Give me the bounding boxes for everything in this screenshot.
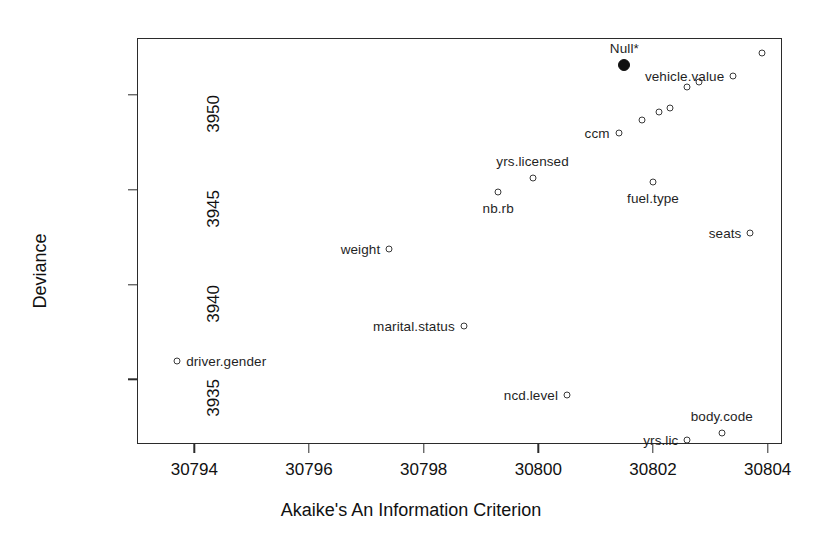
data-point: [667, 105, 674, 112]
data-point-ncd-level: [564, 391, 571, 398]
data-point-seats: [747, 230, 754, 237]
x-tick-label-5: 30804: [744, 460, 791, 480]
data-point-body-code: [718, 429, 725, 436]
y-tick-label-1: 3940: [204, 285, 224, 323]
x-tick-5: [767, 444, 768, 453]
data-point-driver-gender: [174, 357, 181, 364]
y-tick-0: [128, 379, 137, 380]
y-tick-2: [128, 189, 137, 190]
y-tick-1: [128, 284, 137, 285]
y-tick-label-0: 3935: [204, 379, 224, 417]
x-axis-title: Akaike's An Information Criterion: [0, 500, 822, 521]
data-point-vehicle-value: [730, 72, 737, 79]
point-label-marital-status: marital.status: [373, 319, 455, 334]
data-point: [684, 84, 691, 91]
data-point-null-: [618, 59, 630, 71]
data-point-yrs-lic: [684, 437, 691, 444]
point-label-nb-rb: nb.rb: [483, 201, 514, 216]
data-point-nb-rb: [495, 188, 502, 195]
data-point: [758, 50, 765, 57]
scatter-plot-figure: Null*vehicle.valueccmyrs.licensednb.rbfu…: [0, 0, 822, 542]
data-point: [638, 116, 645, 123]
y-axis-title: Deviance: [30, 233, 51, 308]
x-tick-label-3: 30800: [515, 460, 562, 480]
data-point-yrs-licensed: [529, 175, 536, 182]
plot-area-frame: [137, 38, 782, 444]
data-point-ccm: [615, 129, 622, 136]
x-tick-1: [308, 444, 309, 453]
point-label-weight: weight: [341, 241, 381, 256]
point-label-seats: seats: [709, 226, 742, 241]
point-label-null-: Null*: [610, 41, 639, 56]
data-point-weight: [386, 245, 393, 252]
point-label-yrs-lic: yrs.lic: [643, 433, 678, 448]
x-tick-label-1: 30796: [285, 460, 332, 480]
y-axis-title-text: Deviance: [30, 233, 51, 308]
y-tick-label-3: 3950: [204, 95, 224, 133]
point-label-driver-gender: driver.gender: [186, 353, 266, 368]
data-point: [655, 108, 662, 115]
x-tick-label-0: 30794: [171, 460, 218, 480]
data-point-fuel-type: [650, 179, 657, 186]
point-label-vehicle-value: vehicle.value: [645, 68, 724, 83]
point-label-yrs-licensed: yrs.licensed: [496, 154, 568, 169]
x-tick-2: [423, 444, 424, 453]
x-tick-0: [194, 444, 195, 453]
data-point-marital-status: [460, 323, 467, 330]
point-label-ccm: ccm: [585, 125, 610, 140]
point-label-fuel-type: fuel.type: [627, 191, 679, 206]
y-tick-label-2: 3945: [204, 190, 224, 228]
point-label-body-code: body.code: [691, 409, 753, 424]
y-tick-3: [128, 94, 137, 95]
x-tick-label-2: 30798: [400, 460, 447, 480]
x-tick-4: [652, 444, 653, 453]
x-tick-label-4: 30802: [629, 460, 676, 480]
x-tick-3: [538, 444, 539, 453]
point-label-ncd-level: ncd.level: [504, 387, 558, 402]
